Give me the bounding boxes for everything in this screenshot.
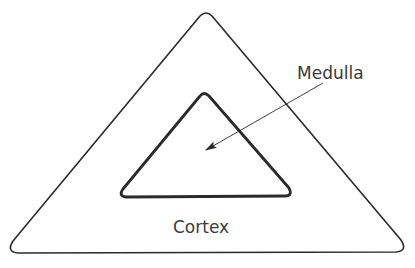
pointer-arrow [206,83,323,150]
inner-triangle-medulla [121,94,290,198]
cortex-label: Cortex [173,217,229,237]
diagram-canvas: Medulla Cortex [0,0,415,268]
medulla-label: Medulla [297,63,364,83]
